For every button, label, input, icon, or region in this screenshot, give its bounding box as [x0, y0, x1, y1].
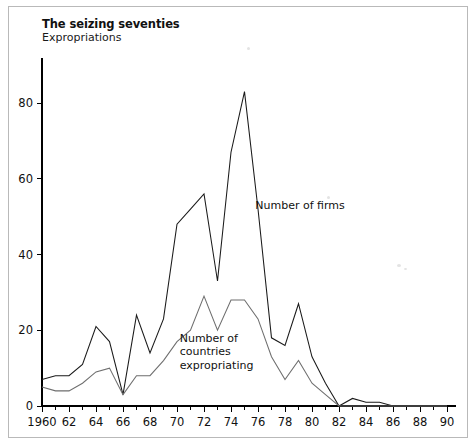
x-tick-label: 76	[251, 415, 266, 429]
x-tick-label: 88	[413, 415, 428, 429]
series-line-1	[42, 296, 447, 406]
scan-speck	[404, 268, 407, 270]
y-axis: 020406080	[18, 58, 42, 414]
y-tick-label: 20	[18, 323, 33, 337]
x-tick-label: 84	[359, 415, 374, 429]
x-tick-label: 86	[386, 415, 401, 429]
x-tick-label: 62	[62, 415, 77, 429]
scan-speck	[327, 196, 330, 199]
x-tick-label: 68	[143, 415, 158, 429]
y-tick-label: 60	[18, 172, 33, 186]
x-tick-label: 66	[116, 415, 131, 429]
y-tick-label: 0	[26, 399, 33, 413]
series-annotation-1: countries	[180, 345, 231, 358]
y-tick-label: 80	[18, 96, 33, 110]
series-annotation-1: Number of	[180, 332, 239, 345]
x-tick-label: 64	[89, 415, 104, 429]
scan-speck	[247, 47, 250, 50]
x-tick-label: 72	[197, 415, 212, 429]
series-annotations: Number of firmsNumber ofcountriesexpropr…	[180, 199, 345, 372]
x-tick-label: 74	[224, 415, 239, 429]
scan-speck	[397, 264, 401, 267]
series-annotation-0: Number of firms	[255, 199, 345, 212]
chart-figure: The seizing seventies Expropriations 020…	[0, 0, 476, 447]
y-tick-label: 40	[18, 248, 33, 262]
x-axis: 1960626466687072747678808284868890	[27, 406, 456, 429]
chart-plot-area: 020406080 196062646668707274767880828486…	[0, 0, 476, 447]
x-tick-label: 82	[332, 415, 347, 429]
x-tick-label: 90	[440, 415, 455, 429]
x-tick-label: 80	[305, 415, 320, 429]
x-tick-label: 70	[170, 415, 185, 429]
x-tick-label: 78	[278, 415, 293, 429]
series-annotation-1: expropriating	[180, 359, 254, 372]
x-tick-label: 1960	[27, 415, 56, 429]
